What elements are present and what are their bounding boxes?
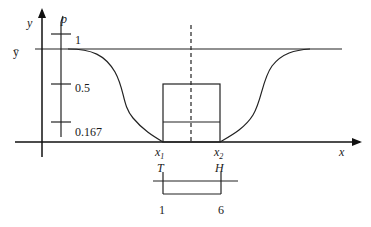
diagram-canvas: y p ȳ x 1 0.5 0.167 x1 x2 T H 1 6 [0, 0, 371, 227]
p-tick-label-0.5: 0.5 [75, 81, 90, 95]
bottom-number-right: 6 [218, 203, 224, 217]
t-label: T [157, 161, 165, 175]
bottom-number-left: 1 [159, 203, 165, 217]
right-curve [220, 49, 310, 142]
x-axis-label: x [338, 145, 345, 159]
y-axis-label: y [26, 16, 33, 30]
p-axis-label: p [60, 12, 67, 26]
p-tick-label-0.167: 0.167 [75, 125, 102, 139]
h-label: H [214, 161, 225, 175]
x2-label: x2 [213, 145, 223, 161]
p-tick-label-1: 1 [75, 33, 81, 47]
ybar-label: ȳ [13, 45, 19, 59]
x1-label: x1 [154, 145, 164, 161]
